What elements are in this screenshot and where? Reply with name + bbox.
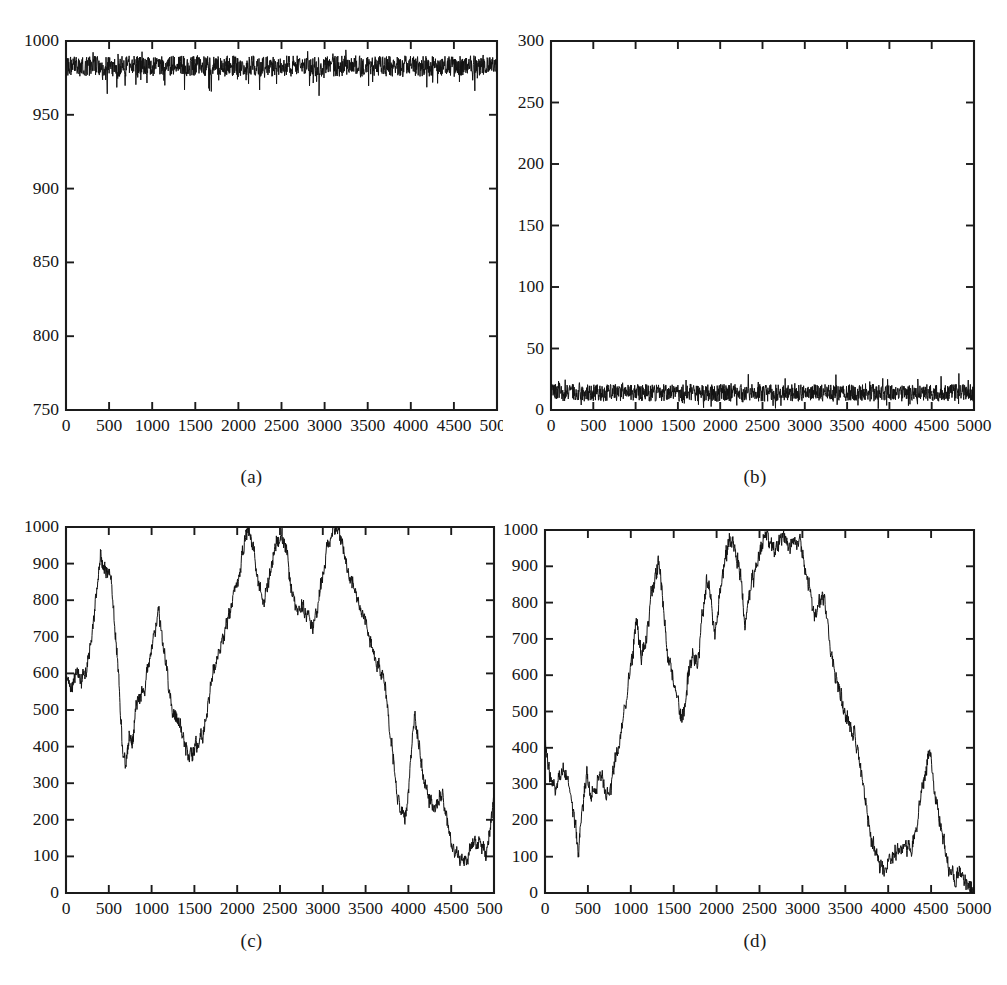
- x-tick-label: 500: [575, 898, 602, 918]
- x-tick-label: 2000: [699, 898, 734, 918]
- y-tick-label: 600: [33, 662, 60, 682]
- x-tick-label: 0: [541, 898, 550, 918]
- y-tick-label: 400: [512, 737, 539, 757]
- x-tick-label: 2000: [703, 415, 738, 435]
- data-trace: [66, 527, 494, 866]
- panel-c: 0100200300400500600700800900100005001000…: [0, 500, 503, 985]
- x-tick-label: 2500: [264, 415, 299, 435]
- plot-a: 7508008509009501000050010001500200025003…: [0, 14, 503, 454]
- y-tick-label: 0: [535, 399, 544, 419]
- y-tick-label: 0: [50, 882, 59, 902]
- x-tick-label: 4500: [914, 898, 949, 918]
- plot-b: 0501001502002503000500100015002000250030…: [503, 14, 1007, 454]
- x-tick-label: 1000: [618, 415, 653, 435]
- panel-b: 0501001502002503000500100015002000250030…: [503, 14, 1007, 484]
- x-tick-label: 2500: [745, 415, 780, 435]
- x-tick-label: 5000: [957, 898, 992, 918]
- y-tick-label: 1000: [503, 519, 538, 539]
- x-tick-label: 3500: [828, 898, 863, 918]
- x-tick-label: 5000: [480, 415, 504, 435]
- x-tick-label: 1000: [134, 898, 169, 918]
- y-tick-label: 800: [512, 592, 539, 612]
- y-tick-label: 200: [518, 153, 545, 173]
- x-tick-label: 500: [96, 898, 123, 918]
- x-tick-label: 0: [547, 415, 556, 435]
- data-trace: [545, 531, 974, 893]
- y-tick-label: 100: [512, 846, 539, 866]
- y-tick-label: 750: [33, 399, 60, 419]
- x-tick-label: 2500: [263, 898, 298, 918]
- y-tick-label: 100: [518, 276, 545, 296]
- y-tick-label: 950: [33, 104, 60, 124]
- y-tick-label: 1000: [24, 516, 59, 536]
- four-panel-figure: 7508008509009501000050010001500200025003…: [0, 0, 1007, 985]
- y-tick-label: 900: [33, 178, 60, 198]
- x-tick-label: 2000: [220, 898, 255, 918]
- panel-caption-d: (d): [503, 930, 1007, 952]
- y-tick-label: 200: [33, 809, 60, 829]
- x-tick-label: 3500: [830, 415, 865, 435]
- x-tick-label: 0: [62, 415, 71, 435]
- x-tick-label: 3500: [350, 415, 385, 435]
- x-tick-label: 1000: [135, 415, 170, 435]
- y-tick-label: 300: [518, 30, 545, 50]
- y-tick-label: 1000: [24, 30, 59, 50]
- y-tick-label: 200: [512, 809, 539, 829]
- y-tick-label: 400: [33, 736, 60, 756]
- plot-frame: [66, 527, 494, 893]
- y-tick-label: 800: [33, 325, 60, 345]
- y-tick-label: 250: [518, 92, 545, 112]
- x-tick-label: 4500: [436, 415, 471, 435]
- x-tick-label: 0: [62, 898, 71, 918]
- y-tick-label: 50: [527, 338, 545, 358]
- data-trace: [66, 50, 497, 96]
- x-tick-label: 2500: [742, 898, 777, 918]
- x-tick-label: 4000: [871, 898, 906, 918]
- y-tick-label: 850: [33, 251, 60, 271]
- x-tick-label: 500: [96, 415, 123, 435]
- x-tick-label: 4000: [872, 415, 907, 435]
- x-tick-label: 500: [580, 415, 607, 435]
- x-tick-label: 4500: [434, 898, 469, 918]
- x-tick-label: 3000: [307, 415, 342, 435]
- x-tick-label: 1000: [613, 898, 648, 918]
- x-tick-label: 1500: [178, 415, 213, 435]
- x-tick-label: 4000: [391, 898, 426, 918]
- plot-frame: [551, 41, 974, 410]
- x-tick-label: 1500: [177, 898, 212, 918]
- y-tick-label: 700: [33, 626, 60, 646]
- panel-d: 0100200300400500600700800900100005001000…: [503, 500, 1007, 985]
- plot-frame: [545, 530, 974, 893]
- y-tick-label: 150: [518, 215, 545, 235]
- y-tick-label: 0: [529, 882, 538, 902]
- x-tick-label: 1500: [660, 415, 695, 435]
- panel-a: 7508008509009501000050010001500200025003…: [0, 14, 503, 484]
- x-tick-label: 1500: [656, 898, 691, 918]
- x-tick-label: 3000: [785, 898, 820, 918]
- y-tick-label: 300: [33, 772, 60, 792]
- panel-caption-a: (a): [0, 466, 503, 488]
- x-tick-label: 3000: [787, 415, 822, 435]
- y-tick-label: 900: [33, 553, 60, 573]
- y-tick-label: 500: [512, 701, 539, 721]
- y-tick-label: 800: [33, 589, 60, 609]
- x-tick-label: 4000: [393, 415, 428, 435]
- plot-d: 0100200300400500600700800900100005001000…: [503, 500, 1007, 920]
- x-tick-label: 3500: [348, 898, 383, 918]
- panel-caption-c: (c): [0, 930, 503, 952]
- y-tick-label: 900: [512, 555, 539, 575]
- y-tick-label: 500: [33, 699, 60, 719]
- y-tick-label: 100: [33, 845, 60, 865]
- x-tick-label: 3000: [305, 898, 340, 918]
- panel-caption-b: (b): [503, 466, 1007, 488]
- plot-frame: [66, 41, 497, 410]
- x-tick-label: 2000: [221, 415, 256, 435]
- y-tick-label: 600: [512, 664, 539, 684]
- plot-c: 0100200300400500600700800900100005001000…: [0, 500, 503, 920]
- y-tick-label: 700: [512, 628, 539, 648]
- y-tick-label: 300: [512, 773, 539, 793]
- x-tick-label: 4500: [914, 415, 949, 435]
- x-tick-label: 5000: [957, 415, 992, 435]
- x-tick-label: 5000: [477, 898, 504, 918]
